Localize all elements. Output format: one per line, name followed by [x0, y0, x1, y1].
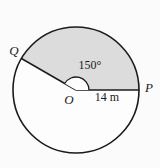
- radius-value-label: 14 m: [95, 90, 120, 104]
- point-q-label: Q: [9, 43, 19, 58]
- angle-value-label: 150°: [79, 58, 102, 72]
- point-p-label: P: [144, 80, 153, 95]
- center-o-label: O: [64, 92, 74, 107]
- geometry-diagram: Q P O 150° 14 m: [0, 0, 160, 168]
- circle-sector-figure: Q P O 150° 14 m: [0, 0, 160, 168]
